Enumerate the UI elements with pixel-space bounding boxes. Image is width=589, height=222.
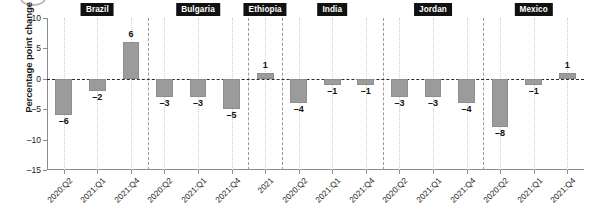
bar [223,79,240,109]
y-tick-label: –5 [32,104,41,114]
panel-divider [483,18,484,170]
x-tick-label: 2020:Q2 [281,176,310,205]
y-tick-mark [43,140,47,141]
y-tick-label: –10 [27,135,41,145]
y-tick-mark [43,109,47,110]
x-tick-label: 2021:Q1 [515,176,544,205]
panel-divider [148,18,149,170]
x-tick-label: 2021:Q1 [79,176,108,205]
bar-value-label: –3 [394,98,404,108]
x-tick-mark [534,170,535,174]
bar-value-label: –3 [193,98,203,108]
bar-value-label: –1 [529,86,539,96]
bar-value-label: –6 [59,116,69,126]
x-tick-label: 2021:Q1 [415,176,444,205]
y-tick-mark [43,170,47,171]
country-label-brazil: Brazil [81,3,114,16]
country-label-jordan: Jordan [414,3,452,16]
bar [89,79,106,91]
bar-value-label: 1 [263,60,268,70]
bar [458,79,475,103]
bar [123,42,140,78]
bar [492,79,509,128]
country-label-bulgaria: Bulgaria [176,3,220,16]
bar [324,79,341,85]
x-tick-mark [97,170,98,174]
x-tick-mark [467,170,468,174]
bar-value-label: –2 [92,92,102,102]
x-tick-mark [64,170,65,174]
x-tick-label: 2020:Q2 [381,176,410,205]
x-tick-mark [332,170,333,174]
panel-divider [248,18,249,170]
bar [391,79,408,97]
bar-value-label: –5 [227,110,237,120]
bar-value-label: 6 [128,29,133,39]
bar [425,79,442,97]
panel-divider [282,18,283,170]
y-tick-label: –15 [27,165,41,175]
y-tick-label: 0 [36,74,41,84]
x-tick-mark [164,170,165,174]
x-tick-mark [433,170,434,174]
gridline [567,18,568,170]
x-tick-mark [567,170,568,174]
bar-value-label: –3 [159,98,169,108]
x-tick-label: 2021:Q1 [180,176,209,205]
x-tick-mark [131,170,132,174]
x-tick-mark [299,170,300,174]
bar-value-label: –1 [327,86,337,96]
x-tick-mark [265,170,266,174]
x-tick-mark [232,170,233,174]
y-tick-label: 5 [36,43,41,53]
bar [290,79,307,103]
bar-value-label: 1 [565,60,570,70]
x-tick-label: 2020:Q2 [482,176,511,205]
x-tick-mark [399,170,400,174]
bar [156,79,173,97]
x-tick-label: 2021:Q4 [348,176,377,205]
country-label-mexico: Mexico [514,3,552,16]
x-tick-label: 2021:Q4 [448,176,477,205]
bar-value-label: –4 [462,104,472,114]
bar-value-label: –1 [361,86,371,96]
gridline [265,18,266,170]
bar-value-label: –3 [428,98,438,108]
plot-area: 1050–5–10–15 –6–26–3–3–51–4–1–1–3–3–4–8–… [47,18,584,170]
panel-divider [383,18,384,170]
x-tick-label: 2021:Q1 [314,176,343,205]
x-tick-label: 2021:Q4 [549,176,578,205]
x-tick-mark [198,170,199,174]
x-tick-label: 2021 [256,176,275,195]
x-tick-label: 2021:Q4 [113,176,142,205]
x-tick-mark [366,170,367,174]
y-tick-label: 10 [32,13,41,23]
gridline [131,18,132,170]
bar [357,79,374,85]
y-tick-mark [43,48,47,49]
country-label-india: India [317,3,347,16]
bar [190,79,207,97]
y-tick-mark [43,18,47,19]
x-tick-label: 2021:Q4 [213,176,242,205]
bar-value-label: –4 [294,104,304,114]
x-tick-mark [500,170,501,174]
bar [525,79,542,85]
bar [257,73,274,79]
x-tick-label: 2020:Q2 [146,176,175,205]
bar-value-label: –8 [495,128,505,138]
chart-figure: Percentage point change 1050–5–10–15 –6–… [0,0,589,222]
x-tick-label: 2020:Q2 [46,176,75,205]
bar [559,73,576,79]
bar [55,79,72,115]
x-axis-spine [47,169,584,170]
country-label-ethiopia: Ethiopia [244,3,287,16]
y-axis-spine [47,18,48,170]
